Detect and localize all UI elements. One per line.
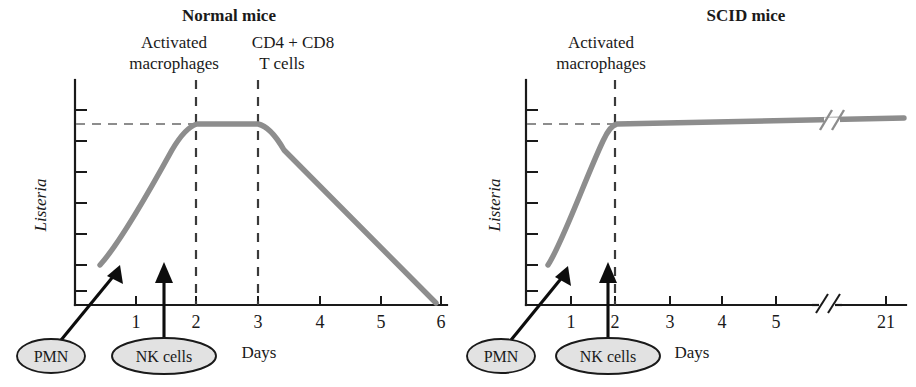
listeria-curve-normal [100,124,436,303]
x-tick-label-5: 5 [377,312,386,332]
x-tick-label-4: 4 [718,312,727,332]
y-axis-ticks [75,110,87,291]
badge-nk-cells[interactable]: NK cells [112,338,216,374]
badge-pmn[interactable]: PMN [17,339,85,373]
listeria-infection-figure: Normal mice Activated macrophages CD4 + … [0,0,916,387]
annotation-activated-macrophages-line2: macrophages [556,54,646,73]
badge-nk-cells[interactable]: NK cells [556,338,660,374]
y-axis-label-listeria: Listeria [485,179,504,233]
x-tick-label-1: 1 [567,312,576,332]
x-tick-label-6: 6 [437,312,446,332]
x-tick-label-2: 2 [192,312,201,332]
annotation-activated-macrophages-line2: macrophages [129,54,219,73]
page-title-scid-mice: SCID mice [707,6,786,25]
panel-normal-mice: Normal mice Activated macrophages CD4 + … [0,0,458,387]
x-axis-label-days: Days [242,343,277,362]
x-tick-label-21: 21 [877,312,895,332]
badge-pmn[interactable]: PMN [467,339,535,373]
page-title-normal-mice: Normal mice [182,6,276,25]
annotation-activated-macrophages-line1: Activated [141,33,208,52]
annotation-cd4-cd8-line2: T cells [259,54,304,73]
x-axis-break-mark [813,294,841,313]
badge-pmn-label: PMN [484,348,519,365]
x-tick-label-3: 3 [254,312,263,332]
chart-normal-mice: Normal mice Activated macrophages CD4 + … [0,0,458,387]
badge-nk-cells-label: NK cells [136,348,192,365]
x-tick-label-1: 1 [132,312,141,332]
y-axis-ticks [526,110,538,291]
x-tick-label-3: 3 [666,312,675,332]
x-tick-label-2: 2 [611,312,620,332]
x-tick-label-4: 4 [316,312,325,332]
x-tick-label-5: 5 [772,312,781,332]
listeria-curve-scid [548,118,904,265]
x-axis-ticks [136,296,441,305]
annotation-cd4-cd8-line1: CD4 + CD8 [252,33,334,52]
badge-pmn-label: PMN [34,348,69,365]
badge-nk-cells-label: NK cells [580,348,636,365]
y-axis-label-listeria: Listeria [31,179,50,233]
x-axis-label-days: Days [675,343,710,362]
chart-scid-mice: SCID mice Activated macrophages Listeria [458,0,916,387]
annotation-activated-macrophages-line1: Activated [568,33,635,52]
panel-scid-mice: SCID mice Activated macrophages Listeria [458,0,916,387]
